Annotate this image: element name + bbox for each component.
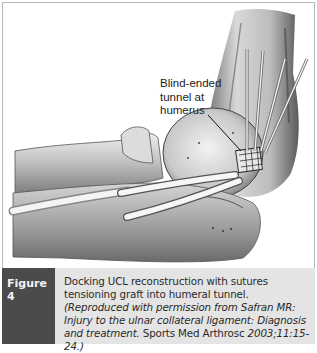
caption-journal: Sports Med Arthrosc [140, 327, 248, 339]
caption-description: Docking UCL reconstruction with sutures … [64, 275, 268, 300]
figure-number-label: Figure 4 [2, 268, 55, 344]
caption-text: Docking UCL reconstruction with sutures … [55, 268, 315, 344]
elbow-ucl-reconstruction-illustration [3, 3, 314, 269]
callout-label-blind-ended-tunnel: Blind-ended tunnel at humerus [160, 77, 221, 118]
callout-line: Blind-ended [160, 77, 221, 91]
figure-illustration-frame: Blind-ended tunnel at humerus [2, 2, 315, 269]
callout-line: humerus [160, 104, 221, 118]
callout-line: tunnel at [160, 91, 221, 105]
figure-caption: Figure 4 Docking UCL reconstruction with… [2, 268, 315, 344]
